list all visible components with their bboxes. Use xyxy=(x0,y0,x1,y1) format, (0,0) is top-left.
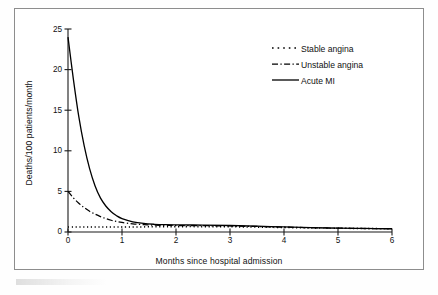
y-tick-label: 5 xyxy=(44,187,62,196)
x-axis-title: Months since hospital admission xyxy=(0,256,438,266)
x-tick-label: 3 xyxy=(223,236,237,245)
x-tick-label: 6 xyxy=(385,236,399,245)
legend-label-acute-mi: Acute MI xyxy=(301,76,335,86)
chart-plot-area xyxy=(0,0,438,295)
x-tick-label: 5 xyxy=(331,236,345,245)
x-tick-label: 4 xyxy=(277,236,291,245)
y-tick-label: 20 xyxy=(44,65,62,74)
legend-label-unstable-angina: Unstable angina xyxy=(301,60,363,70)
y-axis-title: Deaths/100 patients/month xyxy=(24,43,34,223)
figure-container: 25 20 15 10 5 0 0 1 2 3 4 5 6 Months sin… xyxy=(0,0,438,295)
series-line-unstable-angina xyxy=(68,191,392,228)
y-tick-label: 10 xyxy=(44,146,62,155)
x-tick-label: 1 xyxy=(115,236,129,245)
y-tick-label: 0 xyxy=(44,227,62,236)
y-tick-label: 15 xyxy=(44,106,62,115)
legend-line-samples xyxy=(272,48,299,80)
x-tick-label: 2 xyxy=(169,236,183,245)
legend-label-stable-angina: Stable angina xyxy=(301,44,354,54)
y-tick-label: 25 xyxy=(44,25,62,34)
x-tick-label: 0 xyxy=(61,236,75,245)
